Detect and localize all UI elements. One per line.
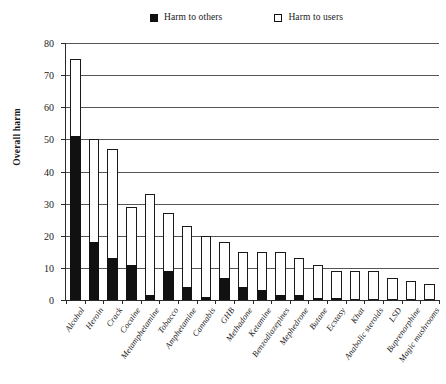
filled-square-icon — [150, 14, 158, 22]
x-tick-13 — [308, 300, 309, 304]
bar-magic-mushrooms — [424, 43, 435, 300]
bar-amphetamine — [182, 43, 193, 300]
x-tick-1 — [85, 300, 86, 304]
bar-total-segment — [406, 281, 417, 300]
bar-ecstasy — [331, 43, 342, 300]
bar-ketamine — [257, 43, 268, 300]
bar-total-segment — [201, 236, 212, 300]
bar-harm-to-others-segment — [313, 298, 324, 300]
bar-series-group — [66, 43, 439, 300]
bar-ghb — [219, 43, 230, 300]
bar-mephedrone — [294, 43, 305, 300]
x-tick-end — [439, 300, 440, 304]
bar-harm-to-others-segment — [89, 242, 100, 300]
x-tick-11 — [271, 300, 272, 304]
bar-total-segment — [424, 284, 435, 300]
x-tick-17 — [383, 300, 384, 304]
bar-harm-to-others-segment — [238, 287, 249, 300]
y-tick-label-20: 20 — [44, 232, 54, 242]
bar-metamphetamine — [145, 43, 156, 300]
x-tick-10 — [253, 300, 254, 304]
x-tick-16 — [364, 300, 365, 304]
open-square-icon — [274, 14, 282, 22]
y-tick-label-80: 80 — [44, 39, 54, 49]
bar-anabolic-steroids — [368, 43, 379, 300]
y-tick-label-40: 40 — [44, 168, 54, 178]
legend-entry-harm-to-users: Harm to users — [274, 13, 343, 23]
bar-buprenorphine — [406, 43, 417, 300]
bar-heroin — [89, 43, 100, 300]
x-tick-12 — [290, 300, 291, 304]
bar-harm-to-others-segment — [219, 278, 230, 300]
bar-total-segment — [387, 278, 398, 300]
x-tick-14 — [327, 300, 328, 304]
bar-total-segment — [145, 194, 156, 300]
bar-harm-to-others-segment — [145, 295, 156, 300]
bar-total-segment — [313, 265, 324, 300]
bar-harm-to-others-segment — [294, 295, 305, 300]
x-tick-19 — [420, 300, 421, 304]
bar-lsd — [387, 43, 398, 300]
x-tick-9 — [234, 300, 235, 304]
bar-methadone — [238, 43, 249, 300]
y-tick-label-60: 60 — [44, 103, 54, 113]
bar-crack — [107, 43, 118, 300]
x-tick-4 — [141, 300, 142, 304]
bar-total-segment — [331, 271, 342, 300]
plot-area: 01020304050607080 AlcoholHeroinCrackCoca… — [65, 43, 439, 301]
bar-harm-to-others-segment — [70, 136, 81, 300]
bar-harm-to-others-segment — [107, 258, 118, 300]
bar-butane — [313, 43, 324, 300]
bar-cannabis — [201, 43, 212, 300]
y-tick-label-30: 30 — [44, 200, 54, 210]
legend-label-harm-to-users: Harm to users — [288, 13, 343, 23]
x-axis-label-lsd: LSD — [388, 306, 404, 324]
bar-tobacco — [163, 43, 174, 300]
bar-harm-to-others-segment — [331, 298, 342, 300]
x-tick-3 — [122, 300, 123, 304]
bar-harm-to-others-segment — [275, 295, 286, 300]
y-tick-label-50: 50 — [44, 135, 54, 145]
x-tick-5 — [159, 300, 160, 304]
bar-cocaine — [126, 43, 137, 300]
y-tick-label-0: 0 — [49, 296, 54, 306]
bar-total-segment — [368, 271, 379, 300]
bar-harm-to-others-segment — [182, 287, 193, 300]
bar-benzodiazepines — [275, 43, 286, 300]
x-tick-6 — [178, 300, 179, 304]
x-tick-15 — [346, 300, 347, 304]
bar-alcohol — [70, 43, 81, 300]
bar-total-segment — [294, 258, 305, 300]
bar-harm-to-others-segment — [201, 297, 212, 300]
x-axis-label-alcohol: Alcohol — [64, 306, 87, 333]
bar-harm-to-others-segment — [126, 265, 137, 300]
x-axis-label-heroin: Heroin — [84, 306, 105, 331]
x-axis-label-khat: Khat — [349, 306, 366, 325]
overall-harm-bar-chart: Harm to others Harm to users Overall har… — [0, 0, 446, 384]
x-tick-0 — [66, 300, 67, 304]
x-tick-18 — [402, 300, 403, 304]
bar-harm-to-others-segment — [163, 271, 174, 300]
y-tick-label-70: 70 — [44, 71, 54, 81]
chart-legend: Harm to others Harm to users — [150, 10, 380, 26]
x-tick-7 — [197, 300, 198, 304]
legend-entry-harm-to-others: Harm to others — [150, 13, 222, 23]
bar-total-segment — [275, 252, 286, 300]
legend-label-harm-to-others: Harm to others — [164, 13, 222, 23]
y-tick-label-10: 10 — [44, 264, 54, 274]
y-axis-title: Overall harm — [12, 89, 22, 185]
x-tick-8 — [215, 300, 216, 304]
bar-total-segment — [350, 271, 361, 300]
x-tick-2 — [103, 300, 104, 304]
bar-harm-to-others-segment — [257, 290, 268, 300]
bar-khat — [350, 43, 361, 300]
